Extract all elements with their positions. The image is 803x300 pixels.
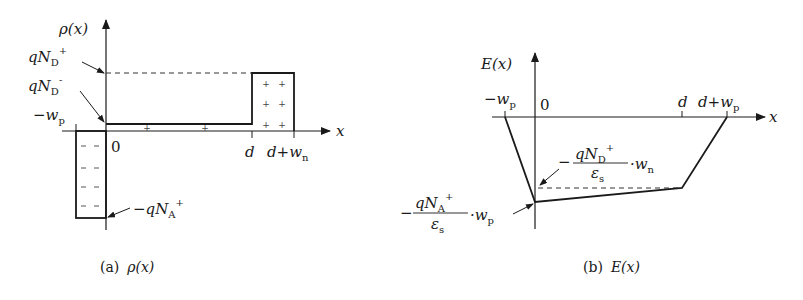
figure-a-charge-density: + + ++ ++ ++ ρ(x) x qND+ qND- −wp 0 d d+… [28,20,345,275]
svg-text:·wn: ·wn [630,155,655,175]
svg-text:+: + [278,79,286,89]
b-lower-annot-arrow [513,204,533,214]
a-label-neg-qna-plus: −qNA+ [133,197,184,220]
svg-text:qNA+: qNA+ [415,191,453,214]
b-field-profile [505,117,727,202]
svg-text:+: + [201,123,209,133]
svg-text:+: + [262,120,270,130]
svg-text:+: + [278,99,286,109]
a-negative-charge-marks [81,146,99,206]
a-qna-arrow [108,208,130,217]
a-label-origin: 0 [111,138,121,156]
a-label-d: d [245,143,255,161]
b-upper-annotation: − qND+ εs ·wn [558,142,655,184]
b-label-d: d [678,93,688,111]
a-x-axis-label: x [336,122,345,140]
svg-text:qND+: qND+ [575,142,614,165]
a-qnd-plus-arrow [82,62,104,73]
a-caption: (a)ρ(x) [100,259,154,275]
b-label-neg-wp: −wp [484,90,516,110]
svg-text:+: + [262,99,270,109]
b-label-origin: 0 [540,96,550,114]
svg-text:·wp: ·wp [470,206,494,226]
diagram-canvas: + + ++ ++ ++ ρ(x) x qND+ qND- −wp 0 d d+… [0,0,803,300]
svg-text:εs: εs [431,215,444,235]
svg-text:+: + [143,123,151,133]
svg-text:+: + [262,79,270,89]
a-label-qnd-plus: qND+ [28,45,67,68]
b-x-axis-label: x [769,108,778,126]
b-upper-annot-arrow [540,169,559,185]
a-y-axis-label: ρ(x) [58,20,88,38]
svg-text:+: + [278,120,286,130]
svg-text:−: − [558,153,571,171]
a-label-qnd-minus: qND- [28,74,62,97]
b-lower-annotation: − qNA+ εs ·wp [400,191,494,235]
a-p-region-box [76,131,106,218]
figure-b-electric-field: E(x) x −wp 0 d d+wp − qND+ εs ·wn − [400,53,778,275]
a-label-d-plus-wn: d+wn [267,143,309,163]
svg-text:−: − [400,204,413,222]
svg-text:εs: εs [591,164,604,184]
b-y-axis-label: E(x) [480,55,512,73]
b-caption: (b)E(x) [583,259,640,275]
b-label-d-plus-wp: d+wp [698,93,739,113]
a-label-neg-wp: −wp [33,106,65,126]
a-qnd-minus-arrow [80,91,104,122]
